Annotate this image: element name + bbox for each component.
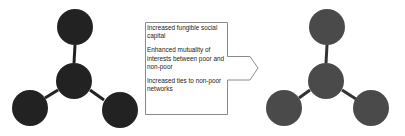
node-bottom-left (12, 90, 48, 126)
outcome-item: Increased fungible social capital (147, 24, 225, 40)
node-center (56, 63, 92, 99)
edge-center-bottom-right (342, 90, 356, 99)
left-network (12, 9, 138, 128)
arrow-box-text: Increased fungible social capital Enhanc… (147, 24, 225, 99)
node-bottom-right (102, 92, 138, 128)
edge-center-bottom-left (299, 90, 310, 98)
edge-center-bottom-right (90, 90, 104, 100)
node-bottom-left (266, 90, 302, 126)
node-top (57, 9, 93, 45)
node-center (308, 63, 344, 99)
edge-top-center (326, 45, 327, 63)
edge-top-center (74, 45, 75, 63)
node-bottom-right (353, 90, 389, 126)
right-network (266, 9, 389, 126)
outcome-item: Enhanced mutuality of interests between … (147, 46, 225, 71)
node-top (309, 9, 345, 45)
edge-center-bottom-left (45, 90, 58, 98)
outcome-item: Increased ties to non-poor networks (147, 77, 225, 93)
